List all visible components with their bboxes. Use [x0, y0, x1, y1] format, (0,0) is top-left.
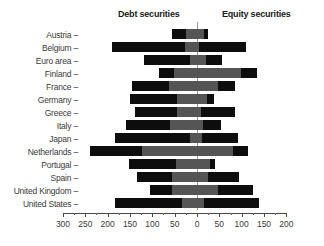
bar-row — [0, 29, 324, 39]
segment-debt-inner — [172, 185, 197, 195]
segment-equity-outer — [202, 133, 238, 143]
segment-equity-outer — [208, 172, 239, 182]
segment-debt-inner — [185, 42, 197, 52]
x-minor-tick — [119, 213, 120, 215]
segment-equity-outer — [233, 146, 248, 156]
segment-equity-outer — [207, 94, 214, 104]
segment-debt-inner — [170, 120, 197, 130]
segment-equity-inner — [197, 55, 206, 65]
x-tick — [219, 213, 220, 217]
segment-debt-outer — [135, 107, 177, 117]
x-tick — [108, 213, 109, 217]
x-tick-label: 100 — [145, 219, 159, 229]
segment-debt-inner — [172, 172, 197, 182]
segment-equity-inner — [197, 146, 233, 156]
x-minor-tick — [163, 213, 164, 215]
segment-equity-inner — [197, 29, 204, 39]
x-tick-label: 100 — [235, 219, 249, 229]
segment-equity-inner — [197, 94, 207, 104]
x-tick — [197, 213, 198, 217]
x-tick — [152, 213, 153, 217]
segment-equity-outer — [204, 29, 208, 39]
segment-debt-inner — [177, 107, 197, 117]
bar-row — [0, 94, 324, 104]
bar-row — [0, 120, 324, 130]
x-minor-tick — [186, 213, 187, 215]
bar-row — [0, 172, 324, 182]
bar-row — [0, 81, 324, 91]
segment-equity-outer — [206, 55, 222, 65]
segment-equity-inner — [197, 159, 210, 169]
x-minor-tick — [275, 213, 276, 215]
bar-row — [0, 55, 324, 65]
x-tick-label: 150 — [123, 219, 137, 229]
x-tick-label: 250 — [78, 219, 92, 229]
x-tick-label: 50 — [215, 219, 224, 229]
bar-row — [0, 133, 324, 143]
segment-debt-inner — [142, 146, 197, 156]
x-minor-tick — [96, 213, 97, 215]
x-tick-label: 0 — [195, 219, 200, 229]
bar-row — [0, 185, 324, 195]
x-tick-label: 50 — [170, 219, 179, 229]
x-minor-tick — [141, 213, 142, 215]
stacked-diverging-bar-chart: Debt securities Equity securities Austri… — [0, 0, 324, 246]
segment-debt-outer — [90, 146, 142, 156]
segment-debt-inner — [177, 94, 197, 104]
segment-debt-outer — [132, 81, 170, 91]
bar-row — [0, 198, 324, 208]
x-tick — [242, 213, 243, 217]
x-tick — [175, 213, 176, 217]
segment-debt-inner — [174, 68, 197, 78]
x-minor-tick — [208, 213, 209, 215]
segment-debt-outer — [159, 68, 174, 78]
x-tick-label: 200 — [279, 219, 293, 229]
segment-debt-outer — [126, 120, 170, 130]
segment-debt-inner — [176, 159, 197, 169]
segment-equity-outer — [218, 185, 254, 195]
x-minor-tick — [253, 213, 254, 215]
bar-row — [0, 107, 324, 117]
panel-header-debt: Debt securities — [118, 9, 180, 19]
segment-equity-inner — [197, 198, 204, 208]
segment-debt-inner — [190, 133, 197, 143]
segment-debt-outer — [115, 133, 190, 143]
segment-debt-outer — [112, 42, 185, 52]
segment-equity-outer — [199, 42, 246, 52]
segment-equity-outer — [210, 159, 214, 169]
segment-debt-outer — [172, 29, 186, 39]
x-minor-tick — [231, 213, 232, 215]
bar-row — [0, 159, 324, 169]
segment-equity-inner — [197, 185, 218, 195]
segment-equity-outer — [201, 107, 235, 117]
segment-debt-inner — [190, 55, 197, 65]
x-tick — [63, 213, 64, 217]
x-tick — [85, 213, 86, 217]
x-tick — [130, 213, 131, 217]
x-tick-label: 200 — [101, 219, 115, 229]
segment-equity-outer — [218, 81, 236, 91]
segment-equity-inner — [197, 172, 208, 182]
panel-header-equity: Equity securities — [222, 9, 291, 19]
segment-equity-inner — [197, 81, 218, 91]
x-minor-tick — [74, 213, 75, 215]
segment-debt-outer — [130, 94, 176, 104]
segment-debt-outer — [144, 55, 190, 65]
bar-row — [0, 68, 324, 78]
x-tick-label: 150 — [257, 219, 271, 229]
bar-row — [0, 42, 324, 52]
x-tick-label: 300 — [56, 219, 70, 229]
segment-debt-outer — [137, 172, 172, 182]
segment-debt-outer — [150, 185, 172, 195]
segment-debt-inner — [182, 198, 197, 208]
x-tick — [264, 213, 265, 217]
segment-debt-inner — [186, 29, 197, 39]
segment-debt-outer — [115, 198, 182, 208]
bar-row — [0, 146, 324, 156]
segment-equity-outer — [204, 198, 259, 208]
segment-equity-outer — [203, 120, 221, 130]
segment-equity-outer — [241, 68, 257, 78]
segment-debt-outer — [129, 159, 176, 169]
segment-equity-inner — [197, 68, 241, 78]
x-tick — [286, 213, 287, 217]
